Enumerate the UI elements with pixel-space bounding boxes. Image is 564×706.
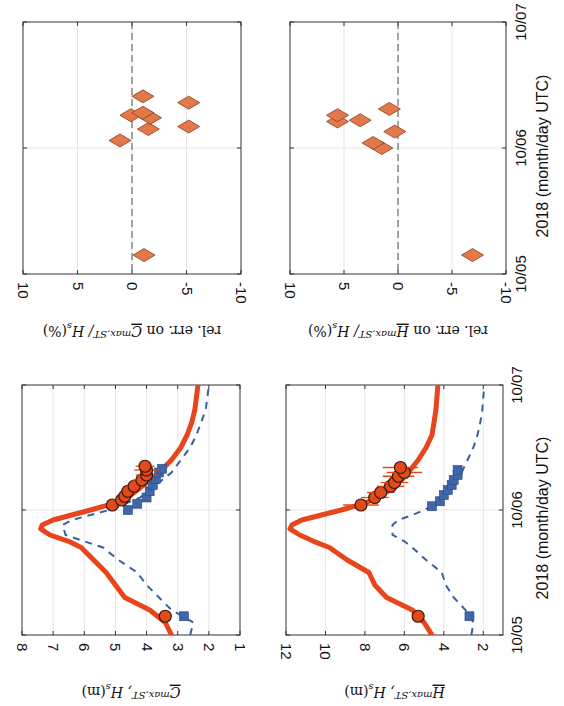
stereo-marker bbox=[139, 460, 151, 472]
buoy-marker bbox=[179, 612, 188, 621]
relative-error-marker bbox=[132, 90, 154, 103]
date-tick-label: 10/06 bbox=[508, 491, 525, 529]
value-tick-label: 0 bbox=[390, 282, 407, 290]
stereo-marker bbox=[394, 462, 406, 474]
axis-label: rel. err. on Cmax,ST/ Hs(%) bbox=[43, 321, 222, 340]
panel-c-relative-error: 1050-5-10rel. err. on Cmax,ST/ Hs(%) bbox=[15, 22, 250, 340]
value-tick-label: 2 bbox=[201, 643, 218, 651]
panel-h-relative-error: 1050-5-10rel. err. on Hmax,ST/ Hs(%) bbox=[282, 22, 515, 340]
value-tick-label: -10 bbox=[233, 282, 250, 304]
value-tick-label: 8 bbox=[14, 643, 31, 651]
value-tick-label: 3 bbox=[170, 643, 187, 651]
value-tick-label: 6 bbox=[76, 643, 93, 651]
buoy-marker bbox=[123, 506, 132, 515]
date-axis-bottom: 10/0510/0610/072018 (month/day UTC) bbox=[508, 366, 551, 654]
relative-error-marker bbox=[137, 123, 159, 136]
value-tick-label: 12 bbox=[278, 643, 295, 660]
stereo-marker bbox=[159, 610, 171, 622]
buoy-marker bbox=[133, 499, 142, 508]
value-tick-label: 5 bbox=[70, 282, 87, 290]
relative-error-marker bbox=[178, 120, 200, 133]
value-tick-label: 7 bbox=[45, 643, 62, 651]
value-tick-label: 5 bbox=[107, 643, 124, 651]
relative-error-marker bbox=[384, 125, 406, 138]
value-tick-label: -5 bbox=[444, 282, 461, 295]
relative-error-marker bbox=[462, 249, 484, 262]
stereo-marker bbox=[412, 610, 424, 622]
value-tick-label: 6 bbox=[396, 643, 413, 651]
stereo-marker bbox=[355, 499, 367, 511]
relative-error-marker bbox=[349, 114, 371, 127]
value-tick-label: 8 bbox=[357, 643, 374, 651]
buoy-marker bbox=[453, 466, 462, 475]
value-tick-label: 10 bbox=[15, 282, 32, 299]
panel-c-max-timeseries: 12345678Cmax,ST, Hs(m) bbox=[14, 385, 249, 701]
date-axis-title: 2018 (month/day UTC) bbox=[534, 75, 551, 238]
value-tick-label: 4 bbox=[139, 643, 156, 651]
buoy-marker bbox=[158, 464, 167, 473]
value-tick-label: -5 bbox=[179, 282, 196, 295]
relative-error-marker bbox=[178, 96, 200, 109]
value-tick-label: 2 bbox=[475, 643, 492, 651]
buoy-marker bbox=[465, 612, 474, 621]
value-tick-label: 4 bbox=[436, 643, 453, 651]
axis-label: rel. err. on Hmax,ST/ Hs(%) bbox=[308, 321, 488, 340]
date-tick-label: 10/07 bbox=[508, 366, 525, 404]
axis-label: Cmax,ST, Hs(m) bbox=[82, 682, 181, 701]
date-tick-label: 10/07 bbox=[512, 3, 529, 41]
value-tick-label: 0 bbox=[124, 282, 141, 290]
value-tick-label: 5 bbox=[336, 282, 353, 290]
value-tick-label: 1 bbox=[232, 643, 249, 651]
date-axis-top: 10/0510/0610/072018 (month/day UTC) bbox=[512, 3, 551, 293]
date-tick-label: 10/05 bbox=[508, 616, 525, 654]
relative-error-marker bbox=[378, 102, 400, 115]
panel-h-max-timeseries: 24681012Hmax,ST, Hs(m) bbox=[278, 385, 503, 701]
date-tick-label: 10/05 bbox=[512, 255, 529, 293]
axis-label: Hmax,ST, Hs(m) bbox=[344, 682, 445, 701]
value-tick-label: 10 bbox=[317, 643, 334, 660]
relative-error-marker bbox=[133, 249, 155, 262]
date-tick-label: 10/06 bbox=[512, 129, 529, 167]
figure-canvas: 1050-5-10rel. err. on Cmax,ST/ Hs(%) 105… bbox=[0, 0, 564, 706]
relative-error-marker bbox=[109, 134, 131, 147]
value-tick-label: 10 bbox=[282, 282, 299, 299]
date-axis-title: 2018 (month/day UTC) bbox=[534, 437, 551, 600]
